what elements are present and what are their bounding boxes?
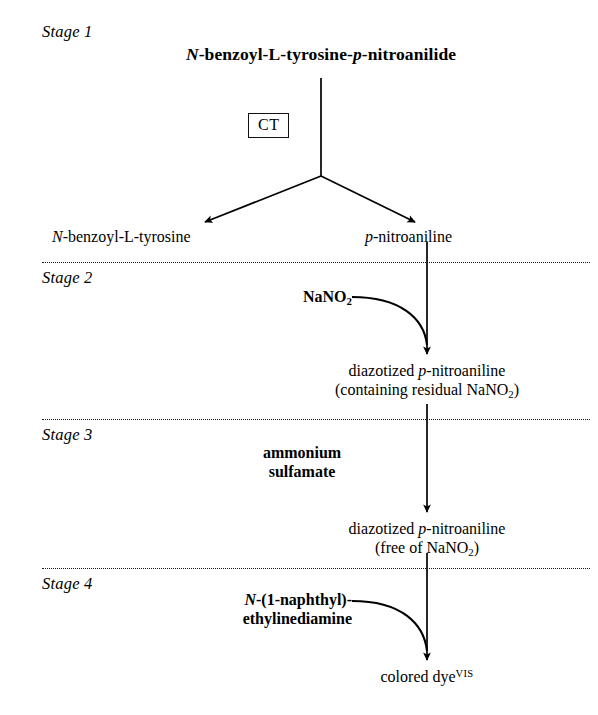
product-diazotized-p-nitroaniline-with-residual-nano2: diazotized p-nitroaniline (containing re… [335, 362, 519, 400]
product3-line-2: (free of NaNO2) [349, 539, 506, 558]
product3-line2-prefix: (free of NaNO [375, 539, 468, 556]
stage4-reagent-curve [352, 601, 427, 651]
product-diazotized-p-nitroaniline-free-of-nano2: diazotized p-nitroaniline (free of NaNO2… [349, 520, 506, 558]
stage-label-2: Stage 2 [42, 268, 92, 288]
product-right-rest-text: -nitroaniline [373, 228, 452, 245]
product-line1-prefix: diazotized [349, 362, 419, 379]
reaction-scheme-figure: Stage 1 N-benzoyl-L-tyrosine-p-nitroanil… [0, 0, 598, 715]
substrate-suffix-text: -nitroanilide [362, 44, 456, 64]
product-line1-suffix: -nitroaniline [426, 362, 505, 379]
reagent4-italic-n: N [244, 591, 256, 608]
product-left-rest-text: -benzoyl-L-tyrosine [63, 228, 191, 245]
stage-divider-3 [42, 568, 590, 569]
enzyme-label-ct-box: CT [248, 113, 289, 138]
colored-dye-vis-superscript: VIS [456, 668, 474, 679]
stage-divider-1 [42, 262, 590, 263]
stage1-left-branch-arrow [205, 176, 321, 222]
product-line-1: diazotized p-nitroaniline [335, 362, 519, 381]
reagent-ammonium-line2: sulfamate [232, 462, 372, 481]
product-p-nitroaniline: p-nitroaniline [365, 228, 452, 247]
stage-label-1: Stage 1 [42, 22, 92, 42]
reagent-ammonium-sulfamate: ammonium sulfamate [232, 443, 372, 481]
product3-line2-suffix: ) [474, 539, 479, 556]
product3-line1-prefix: diazotized [349, 520, 419, 537]
reagent4-line-1: N-(1-naphthyl)- [192, 590, 352, 609]
stage-label-4: Stage 4 [42, 574, 92, 594]
product-left-italic-n: N [52, 228, 63, 245]
product-n-benzoyl-l-tyrosine: N-benzoyl-L-tyrosine [52, 228, 191, 247]
stage2-reagent-curve [352, 297, 427, 345]
product-line2-suffix: ) [514, 381, 519, 398]
colored-dye-text: colored dye [381, 668, 456, 685]
reagent-nano2-text: NaNO [303, 288, 347, 305]
stage-label-3: Stage 3 [42, 425, 92, 445]
product-colored-dye: colored dyeVIS [381, 668, 474, 687]
stage1-right-branch-arrow [321, 176, 415, 222]
product3-line1-italic-p: p [418, 520, 426, 537]
product3-line1-suffix: -nitroaniline [426, 520, 505, 537]
substrate-mid-text: -benzoyl-L-tyrosine- [199, 44, 353, 64]
product3-line-1: diazotized p-nitroaniline [349, 520, 506, 539]
substrate-italic-n: N [186, 44, 199, 64]
reagent4-line-2: ethylinediamine [192, 609, 352, 628]
reagent-nano2-subscript: 2 [347, 295, 352, 307]
reagent4-line1-rest: -(1-naphthyl)- [256, 591, 352, 608]
stage-divider-2 [42, 419, 590, 420]
product-line-2: (containing residual NaNO2) [335, 381, 519, 400]
product-right-italic-p: p [365, 228, 373, 245]
substrate-n-benzoyl-l-tyrosine-p-nitroanilide: N-benzoyl-L-tyrosine-p-nitroanilide [186, 44, 456, 65]
reagent-n-1-naphthyl-ethylinediamine: N-(1-naphthyl)- ethylinediamine [192, 590, 352, 628]
substrate-italic-p: p [353, 44, 362, 64]
reagent-ammonium-line1: ammonium [232, 443, 372, 462]
enzyme-label-ct-text: CT [258, 116, 279, 133]
product-line2-prefix: (containing residual NaNO [335, 381, 508, 398]
reagent-sodium-nitrite: NaNO2 [258, 287, 352, 306]
